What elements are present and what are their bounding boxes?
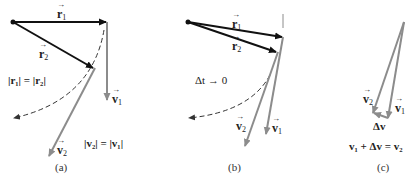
origin-point <box>186 20 191 25</box>
label-v1: v1 <box>395 102 405 116</box>
r2-vector-arrow <box>13 22 93 68</box>
label-v2: v2 <box>57 144 67 158</box>
vector-sum-equation: v₁ + Δv = v₂ <box>349 141 403 152</box>
caption-b: (b) <box>228 162 241 173</box>
equation-r-magnitudes: |r₁| = |r₂| <box>8 75 46 86</box>
label-v2: v2 <box>236 120 246 134</box>
label-v2: v2 <box>363 93 373 107</box>
caption-a: (a) <box>55 162 67 173</box>
label-r2: r2 <box>232 40 241 54</box>
equation-v-magnitudes: |v₂| = |v₁| <box>84 138 123 149</box>
label-v1: v1 <box>272 122 282 136</box>
origin-point <box>11 20 16 25</box>
label-r1: r1 <box>57 8 66 22</box>
delta-v-vector-arrow <box>374 113 388 118</box>
limit-label: Δt → 0 <box>195 75 227 86</box>
label-r2: r2 <box>39 48 48 62</box>
label-r1: r1 <box>232 18 241 32</box>
caption-c: (c) <box>377 162 389 173</box>
label-v1: v1 <box>112 93 122 107</box>
label-delta-v: Δv <box>373 121 385 132</box>
